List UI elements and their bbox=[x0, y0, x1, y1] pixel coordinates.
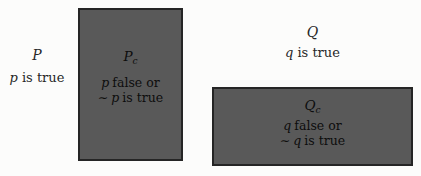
p-complement-label: Pc bbox=[123, 48, 137, 66]
p-region-title: P bbox=[6, 47, 68, 63]
q-line2-text: is true bbox=[304, 133, 345, 148]
negation-symbol: ∼ bbox=[280, 133, 290, 148]
p-complement-line1: pfalse or bbox=[101, 75, 159, 90]
p-region: P pis true bbox=[6, 47, 68, 86]
q-complement-line2: ∼qis true bbox=[280, 133, 345, 148]
p-line1-variable: p bbox=[101, 75, 109, 90]
q-region-title: Q bbox=[270, 24, 355, 40]
q-line1-variable: q bbox=[283, 118, 291, 133]
negation-symbol: ∼ bbox=[98, 90, 108, 105]
p-statement-text: is true bbox=[22, 70, 64, 85]
q-complement-box: Qc qfalse or ∼qis true bbox=[212, 87, 413, 166]
q-line2-variable: q bbox=[293, 133, 301, 148]
p-region-statement: pis true bbox=[6, 70, 68, 86]
q-statement-variable: q bbox=[285, 45, 293, 60]
p-line1-text: false or bbox=[112, 75, 159, 90]
q-statement-text: is true bbox=[297, 45, 339, 60]
q-complement-line1: qfalse or bbox=[283, 118, 341, 133]
p-line2-variable: p bbox=[111, 90, 119, 105]
q-complement-label-main: Q bbox=[304, 97, 315, 113]
p-complement-box: Pc pfalse or ∼pis true bbox=[78, 8, 183, 161]
truth-sets-diagram: P pis true Pc pfalse or ∼pis true Q qis … bbox=[0, 0, 421, 176]
p-complement-label-subscript: c bbox=[133, 56, 138, 66]
q-complement-label-subscript: c bbox=[316, 105, 321, 115]
p-complement-label-main: P bbox=[123, 48, 132, 64]
p-complement-line2: ∼pis true bbox=[98, 90, 163, 105]
p-statement-variable: p bbox=[10, 70, 18, 85]
q-region: Q qis true bbox=[270, 24, 355, 61]
q-line1-text: false or bbox=[294, 118, 341, 133]
q-complement-label: Qc bbox=[304, 97, 320, 115]
p-line2-text: is true bbox=[122, 90, 163, 105]
q-region-statement: qis true bbox=[270, 45, 355, 61]
